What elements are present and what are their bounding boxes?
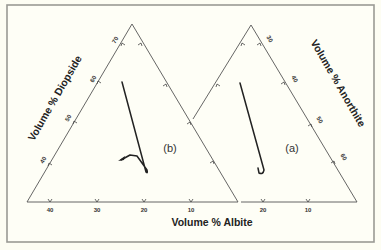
ternary-figure: 40 30 20 10 20 10 40 50 60 70 30 40 50 6… [0, 0, 381, 250]
tick-label-albite-30: 30 [94, 207, 101, 213]
axis-title-albite: Volume % Albite [171, 216, 252, 228]
tick-label-albite-40: 40 [47, 207, 54, 213]
tick-label-albite-20: 20 [141, 207, 148, 213]
tick-label-albite-20-a: 20 [260, 207, 267, 213]
tick-label-albite-10: 10 [188, 207, 195, 213]
panel-label-a: (a) [285, 142, 298, 154]
panel-label-b: (b) [163, 142, 176, 154]
tick-label-albite-10-a: 10 [305, 207, 312, 213]
